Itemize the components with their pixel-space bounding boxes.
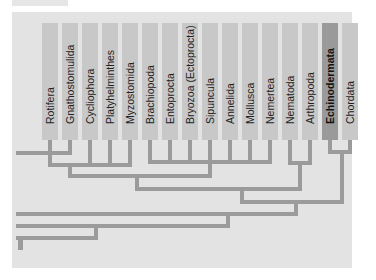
taxon-label: Arthropoda: [304, 72, 316, 124]
taxon-label: Sipuncula: [204, 78, 216, 124]
branch: [135, 187, 302, 191]
taxon-label: Annelida: [224, 83, 236, 124]
taxon-column-mollusca: Mollusca: [242, 23, 258, 140]
branch: [16, 212, 298, 216]
branch: [68, 174, 212, 178]
taxon-column-echinodermata: Echinodermata: [322, 23, 338, 140]
branch: [48, 163, 132, 167]
taxon-column-nematoda: Nematoda: [282, 23, 298, 140]
taxon-label: Gnathostomulida: [64, 45, 76, 124]
branch: [16, 224, 230, 228]
branch: [18, 236, 23, 250]
taxon-column-annelida: Annelida: [222, 23, 238, 140]
taxon-label: Entoprocta: [164, 73, 176, 124]
taxon-label: Brachiopoda: [144, 65, 156, 124]
taxon-label: Rotifera: [44, 87, 56, 124]
branch: [340, 150, 344, 204]
taxon-column-cycliophora: Cycliophora: [82, 23, 98, 140]
taxon-column-bryozoa-ectoprocta: Bryozoa (Ectoprocta): [182, 23, 198, 140]
taxon-label: Echinodermata: [324, 48, 336, 124]
taxon-column-rotifera: Rotifera: [42, 23, 58, 140]
taxon-column-brachiopoda: Brachiopoda: [142, 23, 158, 140]
header-tab: [12, 0, 68, 6]
taxon-column-entoprocta: Entoprocta: [162, 23, 178, 140]
taxon-label: Mollusca: [244, 83, 256, 124]
taxon-column-sipuncula: Sipuncula: [202, 23, 218, 140]
taxon-column-arthropoda: Arthropoda: [302, 23, 318, 140]
taxon-label: Platyhelminthes: [104, 50, 116, 124]
taxon-label: Bryozoa (Ectoprocta): [184, 25, 196, 124]
taxon-column-nemertea: Nemertea: [262, 23, 278, 140]
branch: [240, 200, 344, 204]
taxon-label: Myzostomida: [124, 62, 136, 124]
branch: [16, 151, 52, 155]
taxon-label: Nematoda: [284, 76, 296, 124]
branch: [16, 236, 98, 240]
taxon-label: Cycliophora: [84, 69, 96, 124]
taxon-column-myzostomida: Myzostomida: [122, 23, 138, 140]
taxon-column-platyhelminthes: Platyhelminthes: [102, 23, 118, 140]
taxon-label: Nemertea: [264, 78, 276, 124]
taxon-column-gnathostomulida: Gnathostomulida: [62, 23, 78, 140]
taxon-column-chordata: Chordata: [342, 23, 358, 140]
taxon-label: Chordata: [344, 81, 356, 124]
